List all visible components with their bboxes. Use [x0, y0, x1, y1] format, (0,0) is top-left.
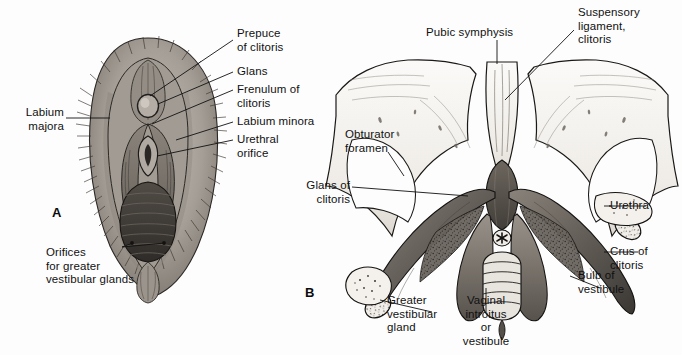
label-labium-minora: Labium minora	[237, 115, 314, 129]
label-urethra: Urethra	[610, 199, 649, 213]
panel-letter-b: B	[305, 285, 314, 300]
label-vaginal-introitus-or-vestibule: Vaginal introitus or vestibule	[447, 294, 525, 348]
figure-artwork	[0, 0, 682, 355]
label-glans-of-clitoris: Glans of clitoris	[282, 179, 350, 206]
label-suspensory-ligament-clitoris: Suspensory ligament, clitoris	[578, 6, 640, 47]
anatomy-figure: A B Labium majora Prepuce of clitoris Gl…	[0, 0, 682, 355]
label-obturator-foramen: Obturator foramen	[345, 128, 394, 155]
label-bulb-of-vestibule: Bulb of vestibule	[578, 269, 624, 296]
label-orifices-for-greater-vestibular-glands: Orifices for greater vestibular glands	[46, 246, 134, 287]
label-frenulum-of-clitoris: Frenulum of clitoris	[237, 83, 299, 110]
label-pubic-symphysis: Pubic symphysis	[426, 26, 513, 40]
label-glans: Glans	[237, 65, 268, 79]
label-labium-majora: Labium majora	[0, 106, 64, 133]
label-urethral-orifice: Urethral orifice	[237, 133, 279, 160]
label-prepuce-of-clitoris: Prepuce of clitoris	[237, 27, 283, 54]
label-crus-of-clitoris: Crus of clitoris	[610, 245, 648, 272]
panel-letter-a: A	[52, 205, 61, 220]
label-greater-vestibular-gland: Greater vestibular gland	[387, 294, 437, 335]
